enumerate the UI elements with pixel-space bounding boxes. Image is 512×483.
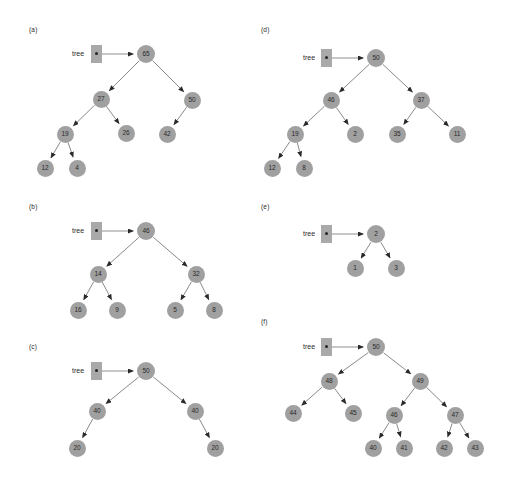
tree-node: 20 — [207, 440, 224, 457]
tree-node: 45 — [345, 405, 362, 422]
panel-label: (f) — [261, 318, 268, 325]
tree-edge — [334, 388, 345, 403]
tree-edge — [460, 423, 469, 438]
tree-node: 35 — [389, 126, 406, 143]
tree-edge — [109, 61, 139, 91]
tree-node: 43 — [467, 440, 484, 457]
tree-edge — [404, 107, 416, 124]
tree-node: 19 — [57, 126, 74, 143]
tree-pointer-label: tree — [303, 54, 315, 61]
tree-edge — [106, 106, 119, 123]
tree-node: 48 — [321, 373, 338, 390]
tree-edge — [448, 424, 452, 437]
tree-node: 46 — [386, 407, 403, 424]
tree-node: 26 — [118, 125, 135, 142]
tree-node: 2 — [367, 225, 385, 243]
tree-edge — [297, 143, 301, 157]
tree-edge — [361, 242, 371, 258]
tree-edge — [174, 107, 187, 124]
tree-node: 12 — [37, 160, 54, 177]
tree-pointer-label: tree — [72, 227, 84, 234]
tree-edge — [106, 377, 138, 403]
tree-node: 50 — [137, 362, 155, 380]
tree-node: 40 — [187, 403, 204, 420]
tree-edge — [279, 141, 290, 158]
panel-label: (d) — [261, 26, 270, 33]
tree-edge — [83, 419, 93, 438]
tree-edge — [302, 387, 322, 405]
tree-node: 4 — [69, 160, 86, 177]
tree-node: 16 — [70, 302, 87, 319]
tree-edge — [199, 419, 209, 438]
tree-node: 50 — [367, 338, 385, 356]
tree-pointer-label: tree — [72, 367, 84, 374]
tree-node: 20 — [69, 440, 86, 457]
tree-edge — [304, 106, 325, 126]
tree-pointer-label: tree — [303, 230, 315, 237]
tree-node: 5 — [167, 302, 184, 319]
tree-node: 41 — [396, 440, 413, 457]
tree-edge — [153, 377, 185, 403]
root-pointer-dot — [95, 229, 98, 232]
tree-edge — [51, 142, 60, 158]
tree-pointer-label: tree — [72, 50, 84, 57]
tree-pointer-label: tree — [303, 343, 315, 350]
panel-label: (b) — [29, 203, 38, 210]
tree-edge — [384, 353, 411, 374]
tree-edge — [401, 388, 414, 405]
tree-edge — [84, 282, 94, 300]
tree-node: 40 — [89, 403, 106, 420]
tree-node: 32 — [188, 266, 205, 283]
panel-label: (a) — [29, 26, 38, 33]
tree-node: 11 — [449, 126, 466, 143]
tree-node: 9 — [109, 302, 126, 319]
tree-edge — [74, 105, 95, 125]
tree-edge — [379, 423, 389, 438]
tree-edge — [428, 106, 449, 126]
tree-node: 37 — [413, 92, 430, 109]
tree-node: 65 — [137, 45, 155, 63]
tree-node: 8 — [296, 160, 313, 177]
tree-node: 19 — [287, 126, 304, 143]
tree-edge — [153, 237, 187, 266]
binary-tree-figure: (a)tree652750192642124(b)tree46143216958… — [0, 0, 512, 483]
tree-node: 42 — [436, 440, 453, 457]
tree-edge — [153, 61, 184, 92]
tree-edge — [340, 64, 369, 91]
tree-node: 1 — [347, 260, 364, 277]
tree-node: 42 — [159, 126, 176, 143]
root-pointer-dot — [325, 56, 328, 59]
tree-edge — [68, 142, 73, 156]
tree-node: 8 — [206, 302, 223, 319]
tree-edge — [397, 424, 401, 437]
tree-node: 49 — [412, 373, 429, 390]
tree-node: 47 — [447, 407, 464, 424]
tree-node: 14 — [90, 266, 107, 283]
tree-edge — [181, 282, 191, 300]
tree-node: 50 — [184, 92, 201, 109]
tree-node: 50 — [367, 49, 385, 67]
root-pointer-dot — [325, 232, 328, 235]
tree-node: 27 — [93, 91, 110, 108]
tree-edge — [426, 387, 446, 406]
root-pointer-dot — [95, 52, 98, 55]
panel-label: (c) — [29, 343, 37, 350]
tree-node: 2 — [347, 126, 364, 143]
tree-edge — [383, 64, 412, 91]
root-pointer-dot — [325, 345, 328, 348]
tree-edge-layer — [0, 0, 512, 483]
tree-node: 46 — [137, 222, 155, 240]
tree-edge — [336, 107, 348, 124]
tree-node: 40 — [365, 440, 382, 457]
tree-node: 12 — [264, 160, 281, 177]
tree-edge — [200, 282, 209, 299]
tree-edge — [107, 237, 139, 266]
panel-label: (e) — [261, 203, 270, 210]
tree-edge — [339, 353, 369, 374]
tree-node: 46 — [323, 92, 340, 109]
root-pointer-dot — [95, 369, 98, 372]
tree-edge — [381, 242, 390, 257]
tree-edge — [102, 282, 111, 299]
tree-node: 44 — [285, 405, 302, 422]
tree-node: 3 — [388, 260, 405, 277]
